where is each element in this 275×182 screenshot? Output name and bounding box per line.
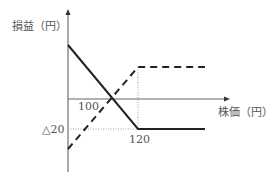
tick-label-120: 120 — [129, 133, 150, 146]
tick-label-neg20: △20 — [42, 123, 64, 136]
x-axis-label: 株価（円） — [218, 103, 273, 119]
y-axis-arrow-icon — [66, 9, 71, 15]
y-axis-label: 損益（円） — [12, 17, 67, 33]
tick-label-100: 100 — [78, 100, 99, 113]
x-axis-arrow-icon — [224, 97, 230, 102]
solid-payoff-line — [68, 45, 205, 129]
